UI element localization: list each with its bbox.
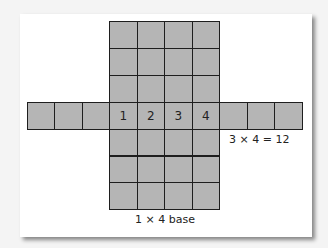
face-cell bbox=[137, 129, 166, 157]
face-cell bbox=[164, 129, 193, 157]
face-cell bbox=[192, 48, 221, 76]
face-cell bbox=[192, 156, 221, 184]
face-cell bbox=[137, 21, 166, 49]
left-strip-cell bbox=[54, 102, 83, 130]
right-strip-cell bbox=[247, 102, 276, 130]
face-cell bbox=[109, 48, 138, 76]
face-cell bbox=[109, 182, 138, 210]
face-cell bbox=[164, 21, 193, 49]
base-cell: 4 bbox=[192, 102, 221, 130]
face-cell bbox=[192, 182, 221, 210]
face-cell bbox=[137, 156, 166, 184]
face-cell bbox=[164, 182, 193, 210]
face-cell bbox=[192, 75, 221, 103]
side-area-label: 3 × 4 = 12 bbox=[229, 133, 289, 146]
face-cell bbox=[109, 75, 138, 103]
face-cell bbox=[164, 75, 193, 103]
base-cell: 1 bbox=[109, 102, 138, 130]
face-cell bbox=[109, 21, 138, 49]
face-cell bbox=[192, 21, 221, 49]
base-label: 1 × 4 base bbox=[135, 213, 195, 226]
face-cell bbox=[137, 182, 166, 210]
left-strip-cell bbox=[27, 102, 56, 130]
face-cell bbox=[164, 156, 193, 184]
right-strip-cell bbox=[274, 102, 303, 130]
face-cell bbox=[109, 129, 138, 157]
left-strip-cell bbox=[82, 102, 111, 130]
right-strip-cell bbox=[219, 102, 248, 130]
face-cell bbox=[192, 129, 221, 157]
face-cell bbox=[109, 156, 138, 184]
base-cell: 3 bbox=[164, 102, 193, 130]
base-cell: 2 bbox=[137, 102, 166, 130]
face-cell bbox=[137, 48, 166, 76]
face-cell bbox=[164, 48, 193, 76]
face-cell bbox=[137, 75, 166, 103]
